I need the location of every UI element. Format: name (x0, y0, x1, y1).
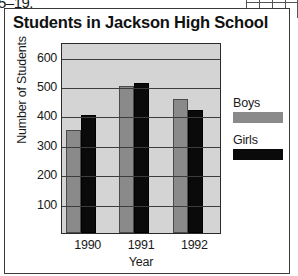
legend-label: Boys (233, 97, 287, 110)
legend-swatch-boys (233, 112, 283, 123)
x-tick-label: 1991 (118, 238, 164, 252)
gridline (62, 206, 220, 207)
x-axis-ticks: 199019911992 (61, 238, 221, 254)
chart-title: Students in Jackson High School (13, 13, 268, 32)
y-tick-label: 400 (15, 109, 57, 123)
bar-girls-1990 (81, 115, 96, 233)
y-axis-ticks: 100200300400500600 (9, 43, 57, 234)
x-axis-label: Year (61, 255, 221, 269)
y-tick-label: 500 (15, 80, 57, 94)
gridline (62, 176, 220, 177)
gridline (62, 117, 220, 118)
x-tick-label: 1992 (171, 238, 217, 252)
chart-figure: Students in Jackson High School Number o… (4, 8, 290, 274)
chart-legend: BoysGirls (233, 97, 287, 171)
gridline (62, 88, 220, 89)
legend-entry-boys: Boys (233, 97, 287, 123)
gridline (62, 59, 220, 60)
bar-boys-1992 (173, 99, 188, 233)
legend-swatch-girls (233, 149, 283, 160)
x-tick-label: 1990 (65, 238, 111, 252)
plot-area (61, 43, 221, 234)
bar-girls-1991 (134, 83, 149, 233)
legend-entry-girls: Girls (233, 134, 287, 160)
y-tick-label: 100 (15, 198, 57, 212)
legend-label: Girls (233, 134, 287, 147)
y-tick-label: 200 (15, 168, 57, 182)
bar-girls-1992 (188, 110, 203, 233)
y-tick-label: 300 (15, 139, 57, 153)
bar-boys-1990 (66, 130, 81, 233)
gridline (62, 147, 220, 148)
y-tick-label: 600 (15, 51, 57, 65)
bar-boys-1991 (119, 86, 134, 233)
